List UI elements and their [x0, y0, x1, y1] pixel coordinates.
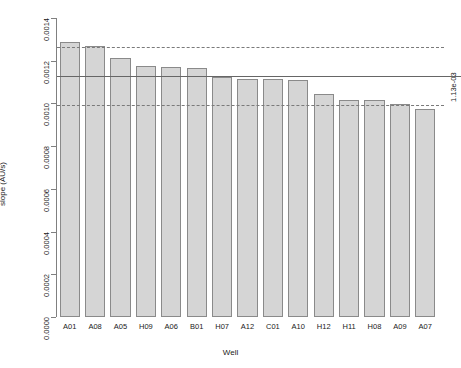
bar [237, 79, 257, 317]
bar [390, 104, 410, 317]
reference-line-mean [57, 76, 461, 77]
x-axis-label: Well [223, 348, 238, 357]
y-axis-tick [51, 317, 56, 318]
y-axis-tick [51, 103, 56, 104]
bar [288, 80, 308, 317]
y-axis-tick-label: 0.0006 [42, 189, 51, 212]
bar [314, 94, 334, 317]
x-axis-tick-label: A09 [393, 322, 406, 331]
y-axis-tick [51, 61, 56, 62]
reference-line-lower-bound [57, 105, 444, 106]
y-axis-tick-label: 0.0004 [42, 232, 51, 255]
x-axis-tick-label: H09 [139, 322, 153, 331]
y-axis-tick [51, 232, 56, 233]
y-axis-tick [51, 146, 56, 147]
barplot-figure: 0.00000.00020.00040.00060.00080.00100.00… [0, 0, 461, 368]
bar [60, 42, 80, 317]
reference-line-upper-bound [57, 47, 444, 48]
y-axis-line [56, 18, 57, 317]
bar [212, 77, 232, 317]
mean-value-label: 1.13e-03 [449, 72, 458, 102]
x-axis-tick-label: A08 [88, 322, 101, 331]
x-axis-tick-label: A06 [165, 322, 178, 331]
y-axis-tick [51, 274, 56, 275]
x-axis-tick-label: A05 [114, 322, 127, 331]
bar [263, 79, 283, 317]
y-axis-label: slope (AU/s) [0, 162, 7, 206]
y-axis-tick-label: 0.0002 [42, 274, 51, 297]
x-axis-tick-label: C01 [266, 322, 280, 331]
x-axis-tick-label: A10 [292, 322, 305, 331]
x-axis-tick-label: H07 [215, 322, 229, 331]
x-axis-tick-label: A07 [419, 322, 432, 331]
x-axis-tick-label: A01 [63, 322, 76, 331]
y-axis-tick-label: 0.0012 [42, 61, 51, 84]
x-axis-tick-label: A12 [241, 322, 254, 331]
x-axis-tick-label: H08 [368, 322, 382, 331]
x-axis-tick-label: B01 [190, 322, 203, 331]
y-axis-tick-label: 0.0008 [42, 146, 51, 169]
bar [85, 46, 105, 317]
y-axis-tick-label: 0.0014 [42, 18, 51, 41]
x-axis-tick-label: H12 [317, 322, 331, 331]
x-axis-tick-label: H11 [342, 322, 355, 331]
y-axis-tick [51, 189, 56, 190]
bar [110, 58, 130, 317]
bar [364, 100, 384, 317]
y-axis-tick [51, 18, 56, 19]
y-axis-tick-label: 0.0010 [42, 103, 51, 126]
bar [136, 66, 156, 317]
bar [339, 100, 359, 317]
y-axis-tick-label: 0.0000 [42, 317, 51, 340]
bar [415, 109, 435, 317]
